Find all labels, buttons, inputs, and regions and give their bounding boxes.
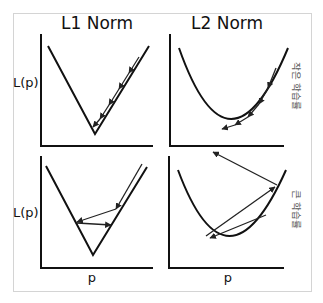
panel-l1-small-lr bbox=[41, 34, 153, 146]
l1-curve bbox=[46, 166, 147, 255]
small-steps bbox=[93, 57, 139, 127]
title-l2-norm: L2 Norm bbox=[191, 13, 263, 33]
large-steps bbox=[206, 152, 277, 238]
title-l1-norm: L1 Norm bbox=[61, 13, 133, 33]
panel-l2-small-lr bbox=[170, 34, 288, 146]
axes bbox=[169, 156, 284, 268]
row-label-large-learning-rate: 큰 학습률 bbox=[291, 190, 302, 229]
panel-l1-large-lr bbox=[41, 156, 153, 268]
l2-curve bbox=[178, 170, 286, 236]
y-axis-label-bottom: L(p) bbox=[13, 205, 39, 220]
x-axis-label-right: p bbox=[224, 270, 232, 285]
l2-curve bbox=[179, 48, 288, 119]
learning-rate-norm-diagram: L1 Norm L2 Norm L(p) L(p) p p 작은 학습률 큰 학… bbox=[0, 0, 323, 303]
y-axis-label-top: L(p) bbox=[13, 75, 39, 90]
x-axis-label-left: p bbox=[88, 270, 96, 285]
large-steps bbox=[77, 164, 142, 225]
row-label-small-learning-rate: 작은 학습률 bbox=[291, 62, 302, 110]
panel-l2-large-lr bbox=[169, 152, 286, 268]
